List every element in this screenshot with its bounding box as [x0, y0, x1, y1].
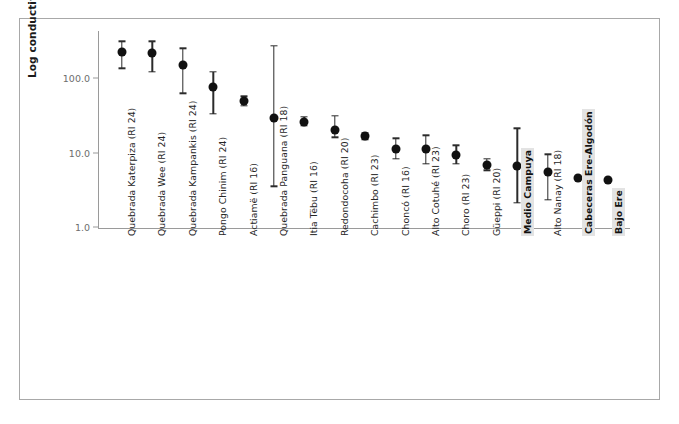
error-bar	[547, 154, 548, 200]
x-axis-label: Redondocoha (RI 20)	[339, 138, 350, 236]
x-axis-label: Alto Nanay (RI 18)	[552, 150, 563, 236]
x-axis-label: Medio Campuya	[521, 148, 534, 236]
y-axis-tick-label: 1.0	[75, 222, 90, 233]
error-bar-cap	[483, 169, 490, 170]
data-point	[209, 82, 218, 91]
x-axis-label: Pongo Chinim (RI 24)	[217, 137, 228, 236]
x-axis-label: Quebrada Kampankis (RI 24)	[187, 101, 198, 236]
y-axis-tick-mark	[93, 227, 98, 228]
x-axis-label: Choncó (RI 16)	[400, 166, 411, 236]
data-point	[391, 145, 400, 154]
data-point	[604, 175, 613, 184]
error-bar-cap	[453, 163, 460, 164]
x-axis-label: Quebrada Panguana (RI 18)	[278, 106, 289, 236]
x-axis-label: Quebrada Katerpiza (RI 24)	[126, 108, 137, 236]
data-point	[148, 49, 157, 58]
y-axis-line	[98, 31, 99, 228]
x-axis-label: Güeppi (RI 20)	[491, 168, 502, 236]
error-bar	[182, 48, 183, 93]
error-bar-cap	[119, 41, 126, 42]
error-bar-cap	[423, 135, 430, 136]
x-axis-label: Actiamë (RI 16)	[248, 163, 259, 236]
chart-plot-area: Log conductivity (µS/cm) 100.010.01.0 Qu…	[0, 0, 679, 424]
y-axis-tick-mark	[93, 78, 98, 79]
error-bar-cap	[149, 71, 156, 72]
x-axis-line	[98, 228, 630, 229]
x-axis-label: Cachimbo (RI 23)	[369, 155, 380, 236]
y-axis-tick-mark	[93, 152, 98, 153]
error-bar-cap	[392, 158, 399, 159]
error-bar-cap	[331, 137, 338, 138]
y-axis-title: Log conductivity (µS/cm)	[26, 0, 38, 78]
data-point	[330, 126, 339, 135]
x-axis-label: Cabeceras Ere-Algodón	[582, 109, 595, 236]
data-point	[543, 167, 552, 176]
error-bar-cap	[453, 145, 460, 146]
error-bar-cap	[271, 45, 278, 46]
x-axis-label: Alto Cotuhé (RI 23)	[430, 146, 441, 236]
data-point	[361, 132, 370, 141]
x-axis-label: Itia Tëbu (RI 16)	[308, 161, 319, 236]
y-axis-tick-label: 10.0	[69, 147, 90, 158]
x-axis-label: Choro (RI 23)	[460, 174, 471, 236]
error-bar-cap	[331, 115, 338, 116]
error-bar-cap	[179, 93, 186, 94]
error-bar-cap	[544, 153, 551, 154]
error-bar-cap	[392, 138, 399, 139]
error-bar	[212, 72, 213, 114]
x-axis-label: Bajo Ere	[612, 188, 625, 236]
x-axis-label: Quebrada Wee (RI 24)	[156, 132, 167, 236]
error-bar-cap	[483, 158, 490, 159]
data-point	[300, 117, 309, 126]
data-point	[452, 150, 461, 159]
data-point	[178, 60, 187, 69]
error-bar-cap	[544, 199, 551, 200]
error-bar-cap	[179, 48, 186, 49]
error-bar-cap	[119, 68, 126, 69]
error-bar-cap	[210, 71, 217, 72]
error-bar-cap	[149, 41, 156, 42]
data-point	[239, 97, 248, 106]
y-axis-tick-label: 100.0	[63, 73, 90, 84]
error-bar-cap	[271, 186, 278, 187]
error-bar-cap	[210, 113, 217, 114]
data-point	[118, 48, 127, 57]
data-point	[482, 160, 491, 169]
error-bar-cap	[514, 128, 521, 129]
error-bar-cap	[514, 202, 521, 203]
error-bar-cap	[423, 163, 430, 164]
